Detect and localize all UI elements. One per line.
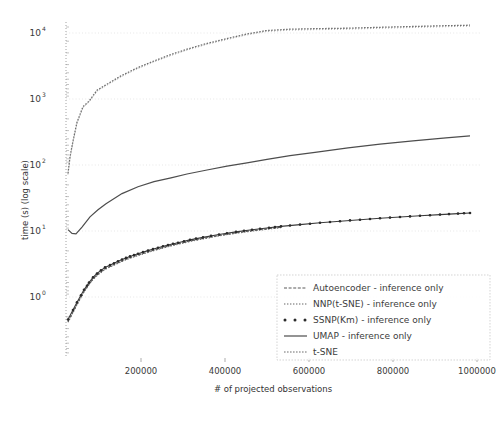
y-tick-label-10: 10 [30, 226, 42, 236]
x-tick-label-1000000: 1000000 [458, 366, 496, 376]
y-tick-label-10000: 10 [30, 28, 42, 38]
chart-figure: 10 0 10 1 10 2 10 3 10 4 200000 400000 6… [0, 0, 497, 421]
legend-label-autoencoder: Autoencoder - inference only [313, 283, 444, 293]
legend-label-t-sne: t-SNE [313, 347, 338, 357]
x-tick-label-600000: 600000 [293, 366, 325, 376]
y-tick-exp-10000: 4 [42, 25, 46, 32]
y-tick-exp-1: 0 [42, 289, 46, 296]
y-axis-title: time (s) (log scale) [20, 160, 30, 240]
y-tick-label-1: 10 [30, 292, 42, 302]
y-tick-exp-1000: 3 [42, 91, 46, 98]
legend-label-nnp-tsne: NNP(t-SNE) - inference only [313, 299, 438, 309]
y-tick-exp-10: 1 [42, 223, 46, 230]
x-tick-label-800000: 800000 [377, 366, 409, 376]
y-tick-exp-100: 2 [42, 157, 46, 164]
legend[interactable]: Autoencoder - inference only NNP(t-SNE) … [277, 275, 490, 360]
y-tick-label-100: 10 [30, 160, 42, 170]
legend-label-ssnp-km: SSNP(Km) - inference only [313, 315, 432, 325]
y-tick-label-1000: 10 [30, 94, 42, 104]
x-tick-label-400000: 400000 [209, 366, 241, 376]
plot-canvas: 10 0 10 1 10 2 10 3 10 4 200000 400000 6… [0, 0, 497, 421]
x-tick-label-200000: 200000 [125, 366, 157, 376]
x-axis-title: # of projected observations [214, 384, 333, 394]
legend-label-umap: UMAP - inference only [313, 331, 413, 341]
